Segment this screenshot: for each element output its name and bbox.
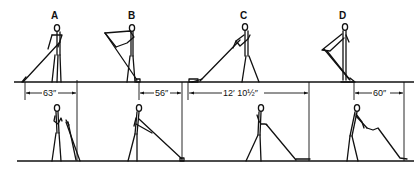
figure-a-top: A (22, 10, 62, 82)
figure-c-bottom (246, 105, 310, 161)
figure-d-top: D (322, 10, 355, 82)
figure-label-d: D (339, 10, 346, 21)
dimension-label-b: 56″ (155, 88, 169, 98)
dimension-56: 56″ (139, 82, 188, 161)
dimension-63: 63″ (25, 80, 77, 161)
dimension-label-c: 12′ 10½″ (223, 88, 259, 98)
diagram-canvas: A B C (0, 0, 419, 171)
reach-diagram: A B C (0, 0, 419, 171)
figure-c-top: C (189, 10, 259, 82)
figure-b-bottom (128, 105, 184, 161)
figure-b-top: B (105, 10, 140, 82)
figure-label-c: C (240, 10, 247, 21)
figure-a-bottom (52, 105, 80, 161)
figure-label-b: B (128, 10, 135, 21)
dimension-label-a: 63″ (43, 88, 57, 98)
dimension-12ft: 12′ 10½″ (189, 82, 309, 161)
figure-d-bottom (347, 105, 407, 161)
dimension-label-d: 60″ (373, 88, 387, 98)
figure-label-a: A (51, 10, 58, 21)
